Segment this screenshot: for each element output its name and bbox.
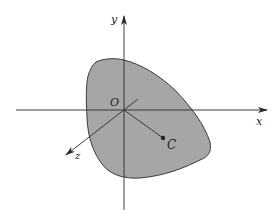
x-axis-label: x (256, 115, 263, 128)
point-c-label: C (167, 138, 176, 152)
y-axis-label: y (110, 13, 118, 26)
shaded-region (86, 59, 210, 178)
point-c-dot (161, 136, 165, 140)
z-axis-label: z (74, 150, 81, 161)
diagram-canvas: x y z O C (0, 0, 276, 218)
origin-label: O (110, 96, 119, 109)
